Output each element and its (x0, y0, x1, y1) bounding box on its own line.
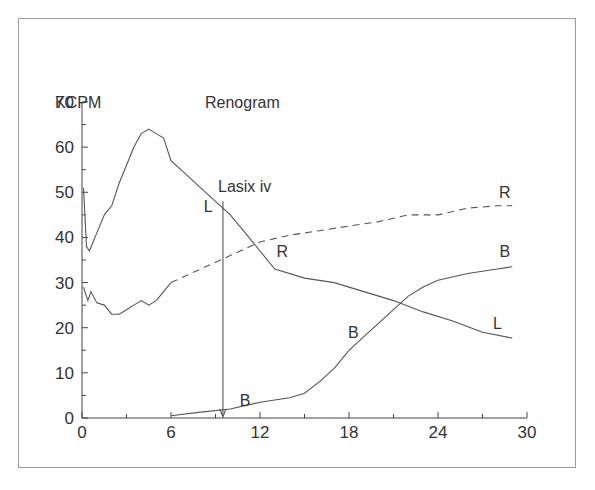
series-label-l: L (493, 315, 502, 332)
series-label-r: R (499, 184, 511, 201)
y-tick-label: 10 (55, 364, 74, 383)
series-label-b: B (348, 324, 359, 341)
y-tick-label: 0 (65, 409, 74, 428)
x-tick-label: 24 (429, 423, 448, 442)
x-tick-label: 6 (166, 423, 175, 442)
y-axis-label: KCPM (55, 94, 101, 111)
series-b (171, 267, 512, 416)
x-tick-label: 12 (251, 423, 270, 442)
renogram-chart: 0102030405060700612182430 LLRRBBB KCPM R… (0, 0, 595, 490)
data-lines (84, 129, 513, 417)
y-tick-label: 30 (55, 274, 74, 293)
lasix-annotation: Lasix iv (218, 178, 271, 195)
series-label-b: B (499, 243, 510, 260)
y-tick-label: 20 (55, 319, 74, 338)
x-tick-label: 0 (77, 423, 86, 442)
series-r-solid (84, 283, 172, 315)
chart-title: Renogram (205, 94, 280, 111)
x-tick-label: 18 (340, 423, 359, 442)
series-label-b: B (240, 392, 251, 409)
axes: 0102030405060700612182430 (55, 93, 536, 442)
series-label-l: L (204, 198, 213, 215)
series-r-dashed (171, 206, 512, 283)
data-labels: LLRRBBB (204, 184, 511, 409)
series-label-r: R (276, 243, 288, 260)
y-tick-label: 40 (55, 228, 74, 247)
y-tick-label: 60 (55, 138, 74, 157)
x-tick-label: 30 (518, 423, 537, 442)
y-tick-label: 50 (55, 183, 74, 202)
